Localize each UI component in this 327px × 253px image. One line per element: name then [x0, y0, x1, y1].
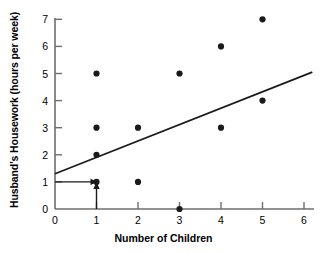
- y-tick-label: 7: [42, 13, 48, 25]
- x-tick-label: 1: [94, 214, 100, 226]
- data-point: [135, 125, 141, 131]
- y-tick-label: 6: [42, 40, 48, 52]
- x-tick-label: 0: [52, 214, 58, 226]
- x-axis-title: Number of Children: [0, 232, 327, 244]
- regression-line: [55, 72, 312, 174]
- y-tick-label: 1: [42, 176, 48, 188]
- data-point: [218, 43, 224, 49]
- x-tick-label: 6: [301, 214, 307, 226]
- data-point: [135, 179, 141, 185]
- y-tick-label: 3: [42, 122, 48, 134]
- y-axis-tick-labels: 01234567: [42, 13, 48, 215]
- y-tick-label: 5: [42, 68, 48, 80]
- y-tick-label: 2: [42, 149, 48, 161]
- data-point: [259, 16, 265, 22]
- data-point: [259, 98, 265, 104]
- x-tick-label: 2: [135, 214, 141, 226]
- data-point: [93, 70, 99, 76]
- data-points: [93, 16, 265, 212]
- x-tick-label: 3: [177, 214, 183, 226]
- x-tick-label: 5: [260, 214, 266, 226]
- data-point: [176, 206, 182, 212]
- y-tick-label: 0: [42, 203, 48, 215]
- x-axis-tick-labels: 0123456: [52, 214, 307, 226]
- regression-line-segment: [55, 72, 312, 174]
- scatter-plot-figure: 01234567 0123456 Husband's Housework (ho…: [0, 0, 327, 253]
- data-point: [176, 70, 182, 76]
- plot-canvas: 01234567 0123456: [0, 0, 327, 253]
- data-point: [93, 179, 99, 185]
- data-point: [93, 152, 99, 158]
- data-point: [93, 125, 99, 131]
- x-tick-label: 4: [218, 214, 224, 226]
- annotation-arrows: [55, 179, 100, 209]
- x-axis-ticks: [97, 202, 305, 209]
- data-point: [218, 125, 224, 131]
- y-axis-title: Husband's Housework (hours per week): [8, 10, 20, 210]
- y-tick-label: 4: [42, 95, 48, 107]
- y-axis-ticks: [55, 19, 62, 182]
